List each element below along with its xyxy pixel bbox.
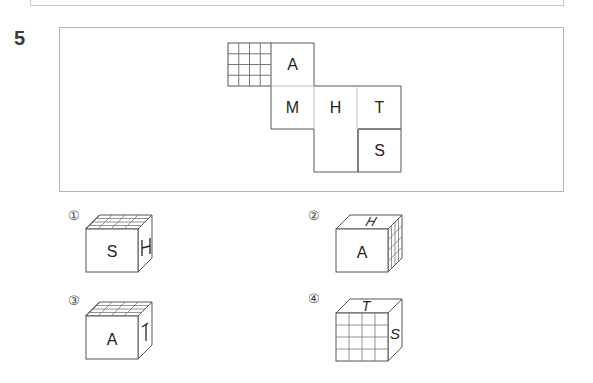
choice-3[interactable]: ③ A [60, 287, 170, 372]
choice-4-top-label: T [362, 298, 372, 314]
choice-3-marker: ③ [68, 293, 80, 308]
net-face-s: S [374, 142, 385, 159]
choice-4-marker: ④ [308, 291, 320, 306]
choice-1-marker: ① [68, 208, 80, 223]
choice-2-front-label: A [357, 244, 368, 261]
choice-2[interactable]: ② A H [300, 200, 410, 285]
choice-4-right-label: S [390, 325, 400, 342]
choice-1[interactable]: ① S [60, 200, 170, 285]
net-face-h: H [330, 99, 342, 116]
net-face-m: M [286, 99, 299, 116]
net-face-a: A [287, 56, 298, 73]
choice-2-marker: ② [308, 208, 320, 223]
choice-3-front-label: A [107, 331, 118, 348]
choice-4[interactable]: ④ T S [300, 285, 410, 375]
net-face-t: T [375, 99, 385, 116]
choice-1-front-label: S [107, 243, 118, 260]
